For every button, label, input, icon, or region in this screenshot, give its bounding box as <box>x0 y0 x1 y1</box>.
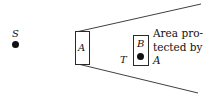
source-node-label: S <box>12 29 19 39</box>
caption-block: Area pro- tected by A <box>153 27 215 68</box>
cone-lower-boundary-line <box>78 64 198 93</box>
source-node-dot <box>12 41 19 48</box>
target-node-label: T <box>120 55 127 65</box>
caption-line-3: A <box>153 54 215 68</box>
blocker-box-a-label: A <box>78 43 85 53</box>
caption-line-1: Area pro- <box>153 27 215 41</box>
caption-line-2: tected by <box>153 41 215 55</box>
protection-cone-figure: S A B T Area pro- tected by A <box>0 0 215 98</box>
protected-box-b-label: B <box>137 39 144 49</box>
protected-node-dot <box>137 53 144 60</box>
